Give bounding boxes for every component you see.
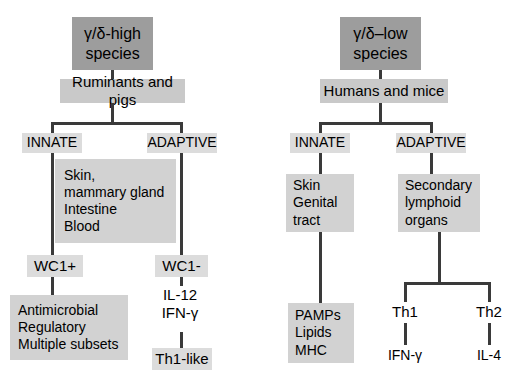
connector-left-split-bar [51, 122, 183, 125]
connector-wc1plus-to-functions [51, 277, 54, 295]
right-adaptive-tissue-box: Secondary lymphoid organs [398, 174, 480, 232]
connector-left-species-down [111, 103, 114, 124]
right-innate-ligands-box: PAMPs Lipids MHC [288, 303, 354, 363]
left-adaptive-label: ADAPTIVE [147, 133, 217, 153]
connector-to-th2 [488, 282, 491, 302]
connector-right-lymphoid-down [438, 232, 441, 284]
right-title-box: γ/δ–low species [340, 17, 421, 70]
left-wc1-negative-box: WC1- [155, 255, 208, 277]
connector-wc1minus-to-cytokines [180, 277, 183, 286]
connector-right-innate-to-tissue [319, 153, 322, 175]
connector-right-species-down [379, 103, 382, 124]
right-species-box: Humans and mice [320, 79, 448, 103]
th1-label: Th1 [380, 303, 430, 321]
th2-cytokine-label: IL-4 [463, 347, 515, 364]
th1-cytokine-label: IFN-γ [376, 347, 434, 364]
connector-th1-to-cytokine [404, 323, 407, 345]
connector-th2-to-cytokine [488, 323, 491, 345]
connector-to-th1 [404, 282, 407, 302]
connector-right-title-to-species [379, 70, 382, 79]
right-innate-label: INNATE [290, 133, 350, 153]
connector-cytokines-to-th1like [180, 332, 183, 348]
left-title-box: γ/δ-high species [72, 17, 153, 70]
left-wc1-positive-box: WC1+ [27, 255, 83, 277]
left-innate-label: INNATE [22, 133, 82, 153]
diagram-canvas: γ/δ-high species Ruminants and pigs INNA… [0, 0, 517, 381]
connector-th-split-bar [404, 282, 491, 285]
th2-label: Th2 [464, 303, 514, 321]
left-innate-functions-box: Antimicrobial Regulatory Multiple subset… [10, 295, 128, 360]
left-adaptive-cytokines: IL-12 IFN-γ [140, 286, 220, 323]
connector-left-adaptive-to-wc1minus [180, 153, 183, 255]
connector-right-split-bar [319, 122, 433, 125]
left-tissue-box: Skin, mammary gland Intestine Blood [55, 159, 176, 243]
left-th1-like-box: Th1-like [152, 348, 212, 370]
right-innate-tissue-box: Skin Genital tract [286, 174, 354, 232]
right-adaptive-label: ADAPTIVE [396, 133, 466, 153]
left-species-box: Ruminants and pigs [60, 79, 185, 103]
connector-left-innate-to-wc1plus [51, 153, 54, 255]
connector-right-adaptive-to-tissue [430, 153, 433, 175]
connector-right-tissue-to-ligands [319, 232, 322, 304]
